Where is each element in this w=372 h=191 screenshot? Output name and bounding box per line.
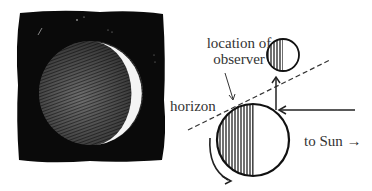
observer-label: location of observer xyxy=(194,35,284,67)
horizon-label: horizon xyxy=(170,98,216,114)
crescent-moon-icon xyxy=(39,41,143,145)
sunlight-arrow-icon xyxy=(279,106,355,114)
observer-pointer-arrow-icon xyxy=(225,73,235,100)
observer-label-line2: observer xyxy=(194,51,284,67)
to-sun-label: to Sun → xyxy=(304,133,362,149)
diagram-canvas xyxy=(0,0,372,191)
line-of-sight-arrow-icon xyxy=(272,77,280,110)
to-sun-text: to Sun xyxy=(304,133,343,149)
observer-label-line1: location of xyxy=(194,35,284,51)
earth-icon xyxy=(217,104,289,176)
arrow-right-icon: → xyxy=(347,133,362,149)
